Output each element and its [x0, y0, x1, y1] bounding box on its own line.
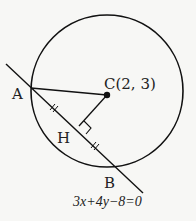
tick-mark-AH: [50, 104, 58, 112]
label-center-C: C(2, 3): [104, 75, 156, 93]
label-point-B: B: [104, 174, 115, 192]
segment-CH: [79, 95, 107, 126]
label-point-H: H: [57, 129, 70, 147]
label-point-A: A: [11, 85, 23, 103]
right-angle-mark: [84, 121, 91, 134]
label-line-equation: 3x+4y−8=0: [72, 194, 142, 209]
segment-AC: [31, 88, 107, 95]
tick-mark-HB: [91, 142, 99, 150]
circle-chord-diagram: C(2, 3) A H B 3x+4y−8=0: [0, 0, 196, 221]
